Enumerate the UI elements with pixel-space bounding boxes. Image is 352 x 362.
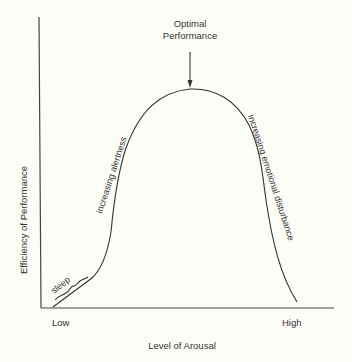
annotation-line1: Optimal <box>174 18 207 29</box>
x-low-label: Low <box>52 317 70 328</box>
performance-curve <box>53 89 297 307</box>
falling-label: increasing emotional disturbance <box>246 114 296 242</box>
sleep-label: sleep <box>49 274 72 295</box>
arousal-performance-diagram: Optimal Performance sleep increasing ale… <box>0 0 352 362</box>
y-axis <box>39 17 41 308</box>
x-axis-label: Level of Arousal <box>148 340 216 351</box>
diagram-svg: Optimal Performance sleep increasing ale… <box>0 0 352 362</box>
annotation-line2: Performance <box>163 30 217 41</box>
y-axis-label: Efficiency of Performance <box>18 166 29 274</box>
arrow-head-icon <box>188 80 193 88</box>
x-high-label: High <box>282 317 302 328</box>
rising-label: increasing alertness <box>94 135 128 215</box>
